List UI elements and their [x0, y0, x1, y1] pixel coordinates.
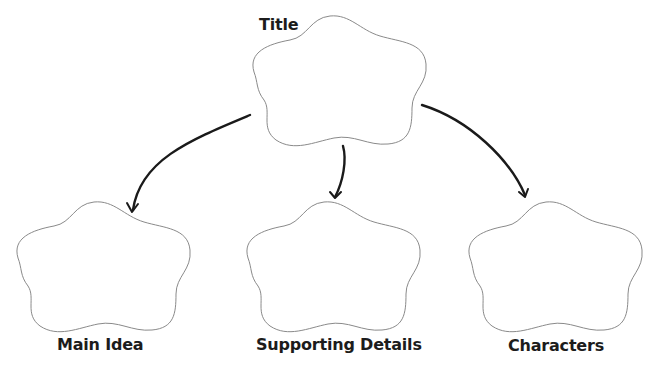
cloud-supporting-details[interactable]: [247, 202, 420, 332]
arrow-to-characters: [422, 105, 528, 197]
graphic-organizer: Title Main Idea Supporting Details Chara…: [0, 0, 657, 372]
node-label-characters: Characters: [508, 336, 604, 355]
node-label-main-idea: Main Idea: [57, 335, 143, 354]
node-label-supporting-details: Supporting Details: [256, 335, 422, 354]
cloud-characters[interactable]: [469, 202, 642, 332]
diagram-canvas: [0, 0, 657, 372]
node-label-title: Title: [259, 15, 298, 34]
cloud-main-idea[interactable]: [17, 202, 190, 332]
cloud-title[interactable]: [253, 16, 426, 146]
arrow-to-main-idea: [127, 115, 250, 212]
arrow-to-supporting-details: [330, 146, 345, 198]
